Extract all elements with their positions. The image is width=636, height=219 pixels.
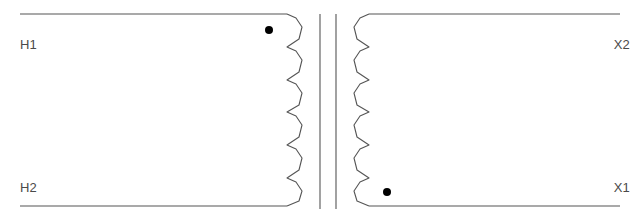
terminal-label-h2: H2 — [20, 181, 37, 194]
terminal-label-x2: X2 — [614, 38, 630, 51]
secondary-winding — [354, 14, 369, 206]
primary-winding — [287, 14, 302, 206]
terminal-label-x1: X1 — [614, 181, 630, 194]
transformer-schematic — [0, 0, 636, 219]
primary-polarity-dot — [265, 26, 273, 34]
terminal-label-h1: H1 — [20, 38, 37, 51]
secondary-polarity-dot — [383, 188, 391, 196]
